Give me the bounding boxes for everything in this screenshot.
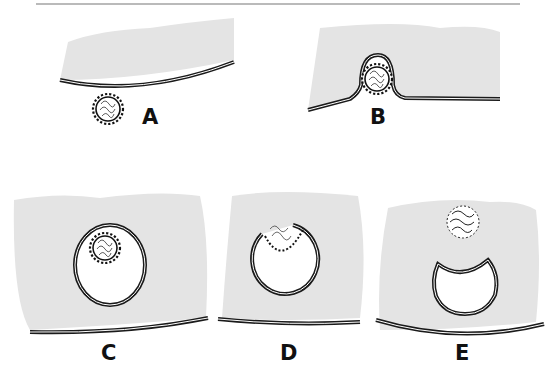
panel-e: E bbox=[376, 200, 544, 365]
panel-c: C bbox=[14, 193, 208, 365]
panel-b: B bbox=[308, 24, 500, 129]
panel-label-a: A bbox=[142, 105, 159, 129]
panel-d: D bbox=[218, 192, 364, 365]
panel-label-b: B bbox=[370, 105, 386, 129]
panel-label-d: D bbox=[280, 341, 297, 365]
panel-label-c: C bbox=[101, 341, 116, 365]
panel-label-e: E bbox=[455, 341, 469, 365]
endocytosis-diagram: A B C D E bbox=[0, 0, 556, 367]
panel-a: A bbox=[60, 18, 234, 129]
